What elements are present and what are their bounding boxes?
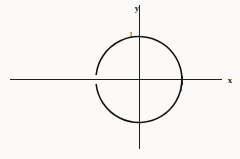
x-tick-one-label: 1: [179, 84, 183, 93]
y-axis-label: y: [135, 3, 140, 13]
x-axis-label: x: [228, 75, 233, 85]
unit-circle-figure: 1 1 y x: [0, 0, 240, 159]
y-tick-one-label: 1: [129, 31, 133, 40]
